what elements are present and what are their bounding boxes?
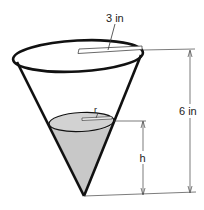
water-radius-label: r (94, 105, 97, 115)
total-height-label: 6 in (179, 105, 197, 117)
top-radius-marker (78, 46, 142, 54)
cone-top-rim (12, 37, 143, 75)
water-region (49, 121, 114, 196)
top-radius-leader (108, 24, 115, 50)
top-extension-line (143, 49, 195, 50)
water-height-label: h (140, 152, 146, 164)
top-radius-label: 3 in (106, 12, 124, 24)
base-extension-line (84, 192, 196, 196)
cone-diagram: 3 in r 6 in h (0, 0, 204, 210)
